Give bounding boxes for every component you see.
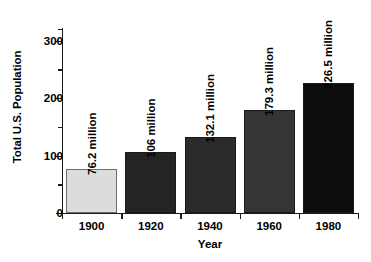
y-axis-line: [62, 28, 63, 214]
bar-value-label: 132.1 million: [204, 74, 216, 143]
bar-value-label: 179.3 million: [263, 47, 275, 116]
bar-value-label: 106 million: [145, 99, 157, 158]
x-axis-category-label: 1900: [62, 220, 121, 232]
x-tick-mark: [358, 213, 359, 219]
x-axis-category-label: 1960: [240, 220, 299, 232]
bar: [125, 152, 176, 213]
bar-chart-figure: Total U.S. Population 0100200300 76.2 mi…: [0, 0, 371, 262]
y-tick-minor: [58, 127, 63, 128]
y-tick-label: 200: [11, 92, 63, 104]
bar-value-label: 226.5 million: [322, 20, 334, 89]
y-tick-minor: [58, 184, 63, 185]
x-tick-mark: [180, 213, 181, 219]
x-axis-title: Year: [62, 238, 358, 250]
x-tick-mark: [240, 213, 241, 219]
bar: [185, 137, 236, 213]
y-tick-label: 300: [11, 35, 63, 47]
x-axis-category-label: 1980: [299, 220, 358, 232]
y-axis-title: Total U.S. Population: [8, 0, 26, 213]
x-axis-category-label: 1920: [121, 220, 180, 232]
x-tick-mark: [62, 213, 63, 219]
bar-value-label: 76.2 million: [86, 113, 98, 176]
y-tick-minor: [58, 69, 63, 70]
y-tick-label: 100: [11, 150, 63, 162]
y-axis-title-text: Total U.S. Population: [11, 50, 23, 163]
bar: [303, 83, 354, 213]
x-axis-category-label: 1940: [180, 220, 239, 232]
bar: [66, 169, 117, 213]
x-tick-mark: [121, 213, 122, 219]
y-tick-label: 0: [11, 207, 63, 219]
bar: [244, 110, 295, 213]
y-tick-minor: [58, 29, 63, 30]
x-tick-mark: [299, 213, 300, 219]
